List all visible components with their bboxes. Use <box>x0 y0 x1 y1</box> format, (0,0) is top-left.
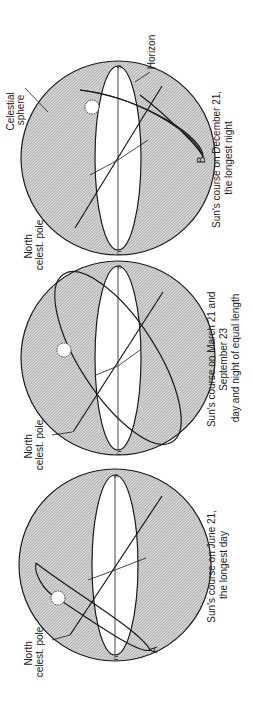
panel-equinox: s n North celest. pole Sun's course on M… <box>21 253 241 470</box>
point-a-label: A <box>148 646 159 653</box>
caption-june: Sun's course on June 21, the longest day <box>206 507 229 622</box>
s-label: s <box>111 474 120 478</box>
caption-equinox: Sun's course on March 21 and September 2… <box>206 289 241 427</box>
s-label: s <box>114 65 123 69</box>
panel-december: s n B Horizon Celestial sphere North cel… <box>5 35 234 271</box>
caption-december: Sun's course on December 21, the longest… <box>211 88 234 228</box>
north-pole-label: North celest. pole <box>23 219 45 270</box>
sun-icon <box>57 343 71 357</box>
panel-june: s n A North celest. pole Sun's course on… <box>19 469 229 677</box>
n-label: n <box>111 656 120 660</box>
point-b-label: B <box>196 156 207 163</box>
n-label: n <box>114 451 123 455</box>
n-label: n <box>114 251 123 255</box>
celestial-sphere-label: Celestial sphere <box>5 89 26 130</box>
horizon-label: Horizon <box>146 35 157 69</box>
north-pole-label: North celest. pole <box>23 626 45 677</box>
celestial-sphere-diagram: s n B Horizon Celestial sphere North cel… <box>0 0 253 711</box>
sun-icon <box>51 591 65 605</box>
s-label: s <box>114 265 123 269</box>
sun-icon <box>85 100 99 114</box>
north-pole-label: North celest. pole <box>23 419 45 470</box>
